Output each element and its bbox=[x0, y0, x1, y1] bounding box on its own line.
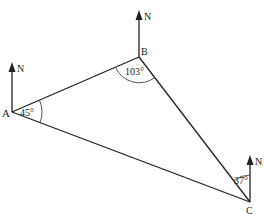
angle-label-b: 103° bbox=[125, 66, 144, 77]
point-label-c: C bbox=[246, 205, 253, 215]
point-label-b: B bbox=[141, 46, 148, 57]
side-ac bbox=[12, 112, 250, 202]
north-arrow-a: N bbox=[9, 62, 25, 112]
side-ab bbox=[12, 57, 139, 112]
angle-label-a: 45° bbox=[20, 107, 34, 118]
angle-arc-a bbox=[40, 100, 42, 122]
north-arrow-c: N bbox=[247, 155, 263, 202]
bearing-diagram: N N N A B C 45° 103° 37° bbox=[0, 0, 268, 215]
north-label-a: N bbox=[17, 63, 24, 74]
arrowhead-icon bbox=[9, 62, 16, 72]
angle-label-c: 37° bbox=[234, 175, 248, 186]
arrowhead-icon bbox=[247, 155, 254, 165]
point-label-a: A bbox=[2, 107, 10, 119]
north-label-b: N bbox=[144, 11, 151, 22]
arrowhead-icon bbox=[136, 10, 143, 20]
north-label-c: N bbox=[255, 156, 262, 167]
